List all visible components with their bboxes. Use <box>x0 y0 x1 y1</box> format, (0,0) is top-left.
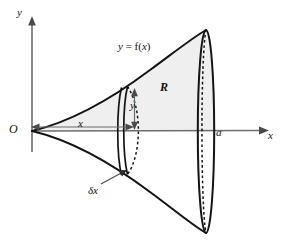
thickness-label: δx <box>88 185 98 196</box>
upper-bound-label: a <box>216 127 222 138</box>
curve-equation-eq: = <box>123 40 135 52</box>
x-axis-label: x <box>268 130 273 141</box>
curve-equation-label: y = f(x) <box>118 41 151 52</box>
curve-equation-rhs: f(x) <box>135 40 151 52</box>
delta-x-leader <box>101 170 127 184</box>
solid-of-revolution-diagram: y x O a y = f(x) R x y δx <box>0 0 286 242</box>
origin-label: O <box>9 123 18 135</box>
y-dimension-label: y <box>130 100 135 111</box>
y-axis-label: y <box>17 7 22 18</box>
figure-canvas <box>0 0 286 242</box>
region-label: R <box>160 81 168 93</box>
lower-curve <box>32 131 206 233</box>
x-dimension-label: x <box>78 118 83 129</box>
curve-equation-arg: x <box>142 40 147 52</box>
